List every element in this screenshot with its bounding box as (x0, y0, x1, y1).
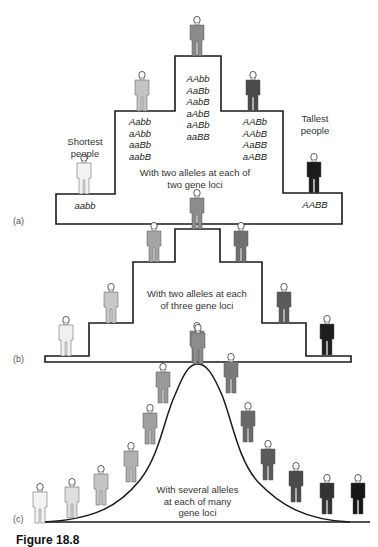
person-icon (261, 440, 275, 480)
genotype: AaBb (177, 85, 219, 97)
person-icon-shortest (77, 154, 91, 194)
shortest-label: Shortest people (58, 136, 112, 159)
panel-b-label: (b) (13, 354, 24, 364)
person-icon (224, 353, 238, 393)
person-icon (246, 71, 260, 111)
genotype-class-3: AABb AAbB AaBB aABB (234, 116, 276, 162)
genotype: aABB (234, 151, 276, 163)
genotype: Aabb (120, 116, 160, 128)
person-icon (156, 363, 170, 403)
person-icon (320, 474, 334, 514)
genotype: aAbb (120, 128, 160, 140)
person-icon (104, 283, 118, 323)
panel-a-description: With two alleles at each of two gene loc… (125, 167, 265, 190)
person-icon (94, 465, 108, 505)
genotype: aaBb (120, 139, 160, 151)
genotype: AAbb (177, 73, 219, 85)
genotype-class-4: AABB (290, 199, 340, 211)
panel-c-label: (c) (13, 514, 24, 524)
person-icon (190, 189, 204, 229)
genotype: AABB (290, 199, 340, 211)
genotype: aAbB (177, 108, 219, 120)
description-line: at each of many (140, 496, 255, 508)
figure-caption: Figure 18.8 (16, 533, 79, 547)
shortest-label-line: Shortest (58, 136, 112, 148)
description-line: With two alleles at each of (125, 167, 265, 179)
person-icon (289, 462, 303, 502)
person-icon (241, 402, 255, 442)
panel-b-description: With two alleles at each of three gene l… (130, 288, 264, 311)
person-icon (59, 316, 73, 356)
person-icon (65, 478, 79, 518)
description-line: gene loci (140, 507, 255, 519)
description-line: two gene loci (125, 179, 265, 191)
description-line: With several alleles (140, 484, 255, 496)
genotype: AabB (177, 96, 219, 108)
genotype: AABb (234, 116, 276, 128)
genotype: aABb (177, 119, 219, 131)
person-icon (234, 222, 248, 262)
description-line: of three gene loci (130, 300, 264, 312)
description-line: With two alleles at each (130, 288, 264, 300)
person-icon (135, 71, 149, 111)
tallest-label-line: Tallest (288, 113, 342, 125)
panel-a-label: (a) (13, 216, 24, 226)
tallest-label-line: people (288, 125, 342, 137)
person-icon (147, 222, 161, 262)
panel-c-description: With several alleles at each of many gen… (140, 484, 255, 519)
genotype: aabB (120, 151, 160, 163)
person-icon (277, 283, 291, 323)
person-icon (351, 474, 365, 514)
genotype-class-2: AAbb AaBb AabB aAbB aABb aaBB (177, 73, 219, 142)
tallest-label: Tallest people (288, 113, 342, 136)
person-icon-tallest (307, 153, 321, 193)
person-icon (190, 16, 204, 56)
person-icon (320, 315, 334, 355)
person-icon (33, 483, 47, 523)
genotype-class-0: aabb (58, 200, 112, 212)
genotype: aabb (58, 200, 112, 212)
genotype: AAbB (234, 128, 276, 140)
genotype-class-1: Aabb aAbb aaBb aabB (120, 116, 160, 162)
person-icon (143, 404, 157, 444)
shortest-label-line: people (58, 148, 112, 160)
person-icon (124, 442, 138, 482)
genotype: aaBB (177, 131, 219, 143)
genotype: AaBB (234, 139, 276, 151)
